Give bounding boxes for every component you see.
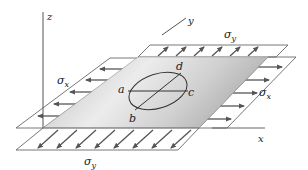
z-axis: z xyxy=(43,11,53,128)
x-axis: x xyxy=(212,128,265,144)
sigma-x-right-label: σx xyxy=(259,86,272,101)
point-d-label: d xyxy=(176,60,183,73)
sigma-y-bottom-frame xyxy=(16,128,199,150)
point-b-label: b xyxy=(129,112,136,125)
point-a-label: a xyxy=(118,83,125,96)
sigma-y-top-label: σy xyxy=(224,28,237,43)
y-axis-label: y xyxy=(187,15,194,26)
z-axis-label: z xyxy=(46,11,53,22)
x-axis-label: x xyxy=(258,133,264,144)
point-c-label: c xyxy=(188,86,194,99)
sigma-x-left-label: σx xyxy=(57,74,70,89)
sigma-y-bottom-label: σy xyxy=(84,155,97,170)
plane-stress-diagram: z y x σy σx σx xyxy=(0,0,308,170)
y-axis: y xyxy=(162,15,194,35)
sigma-y-top-frame xyxy=(138,45,288,57)
